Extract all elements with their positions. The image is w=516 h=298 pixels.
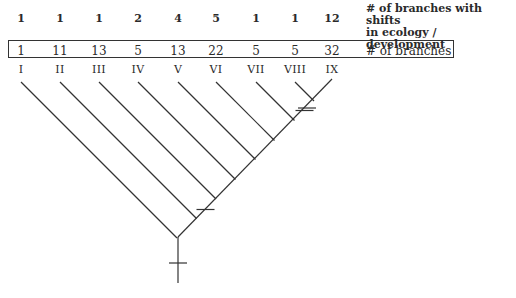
branch-VIII [295, 82, 314, 101]
branch-IX [178, 79, 332, 237]
branch-VI [216, 82, 275, 141]
branch-III [99, 82, 216, 199]
branch-II [60, 82, 197, 219]
branch-IV [138, 82, 236, 180]
branch-V [178, 82, 256, 160]
branch-VII [256, 82, 295, 121]
cladogram [0, 0, 516, 298]
branch-I [21, 82, 177, 238]
